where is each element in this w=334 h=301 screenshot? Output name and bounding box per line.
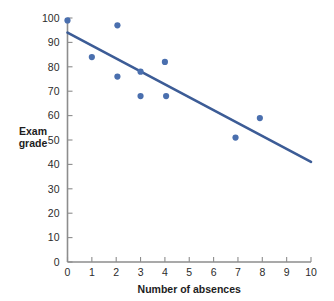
- y-tick-label-20: 20: [48, 207, 60, 219]
- plot-canvas: 0102030405060708090100 012345678910 Exam…: [0, 0, 334, 301]
- x-tick-label-1: 1: [89, 266, 95, 278]
- y-tick-label-40: 40: [48, 158, 60, 170]
- data-point: [114, 22, 120, 28]
- x-tick-label-10: 10: [305, 266, 317, 278]
- x-tick-label-8: 8: [259, 266, 265, 278]
- x-tick-label-0: 0: [65, 266, 71, 278]
- data-point: [232, 134, 238, 140]
- trend-line: [68, 33, 312, 162]
- x-axis-tick-labels: 012345678910: [65, 266, 317, 278]
- y-tick-label-0: 0: [54, 256, 60, 268]
- data-point: [137, 93, 143, 99]
- y-tick-label-90: 90: [48, 36, 60, 48]
- x-tick-label-7: 7: [235, 266, 241, 278]
- y-tick-label-30: 30: [48, 183, 60, 195]
- y-tick-label-50: 50: [48, 134, 60, 146]
- data-point: [89, 54, 95, 60]
- y-tick-label-80: 80: [48, 61, 60, 73]
- regression-line-segment: [68, 33, 312, 162]
- x-tick-label-6: 6: [211, 266, 217, 278]
- x-tick-label-9: 9: [284, 266, 290, 278]
- data-point: [114, 73, 120, 79]
- y-tick-label-10: 10: [48, 231, 60, 243]
- x-tick-label-2: 2: [113, 266, 119, 278]
- x-axis-title: Number of absences: [138, 283, 241, 295]
- data-point: [162, 59, 168, 65]
- data-point: [163, 93, 169, 99]
- data-points-group: [64, 17, 263, 140]
- data-point: [137, 69, 143, 75]
- y-axis-title: Exam grade: [19, 125, 48, 149]
- data-point: [64, 17, 70, 23]
- y-tick-label-60: 60: [48, 109, 60, 121]
- x-tick-label-3: 3: [138, 266, 144, 278]
- data-point: [257, 115, 263, 121]
- x-tick-label-5: 5: [186, 266, 192, 278]
- scatter-plot-figure: 0102030405060708090100 012345678910 Exam…: [0, 0, 334, 301]
- x-axis-group: 012345678910: [65, 257, 317, 278]
- y-tick-label-100: 100: [42, 12, 60, 24]
- y-axis-title-line-1: Exam: [19, 125, 47, 137]
- y-tick-label-70: 70: [48, 85, 60, 97]
- x-tick-label-4: 4: [162, 266, 168, 278]
- y-axis-title-line-2: grade: [19, 137, 48, 149]
